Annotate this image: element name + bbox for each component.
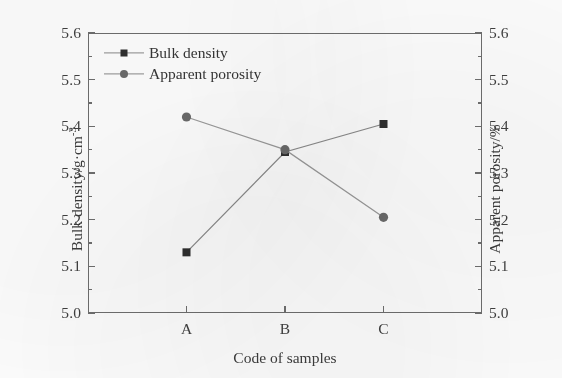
data-point-apparent-porosity-a <box>182 112 191 121</box>
y-axis-left-title-exponent: -3 <box>66 127 78 136</box>
series-line-bulk-density <box>187 124 384 252</box>
y-axis-left-title: Bulk density/g·cm-3 <box>66 127 86 251</box>
x-axis-title: Code of samples <box>88 349 482 367</box>
data-point-bulk-density-c <box>380 120 388 128</box>
chart-figure: 5.05.05.15.15.25.25.35.35.45.45.55.55.65… <box>0 0 562 378</box>
y-axis-right-title: Apparent porosity/% <box>486 124 504 254</box>
legend-label-bulk-density: Bulk density <box>149 44 228 62</box>
data-point-bulk-density-a <box>183 248 191 256</box>
data-point-apparent-porosity-b <box>280 145 289 154</box>
chart-legend: Bulk density Apparent porosity <box>104 42 261 84</box>
legend-marker-square-icon <box>104 47 144 59</box>
y-axis-left-title-text: Bulk density/g·cm <box>68 136 85 251</box>
legend-item-bulk-density: Bulk density <box>104 42 261 63</box>
data-point-apparent-porosity-c <box>379 213 388 222</box>
legend-marker-circle-icon <box>104 68 144 80</box>
legend-label-apparent-porosity: Apparent porosity <box>149 65 261 83</box>
legend-item-apparent-porosity: Apparent porosity <box>104 63 261 84</box>
